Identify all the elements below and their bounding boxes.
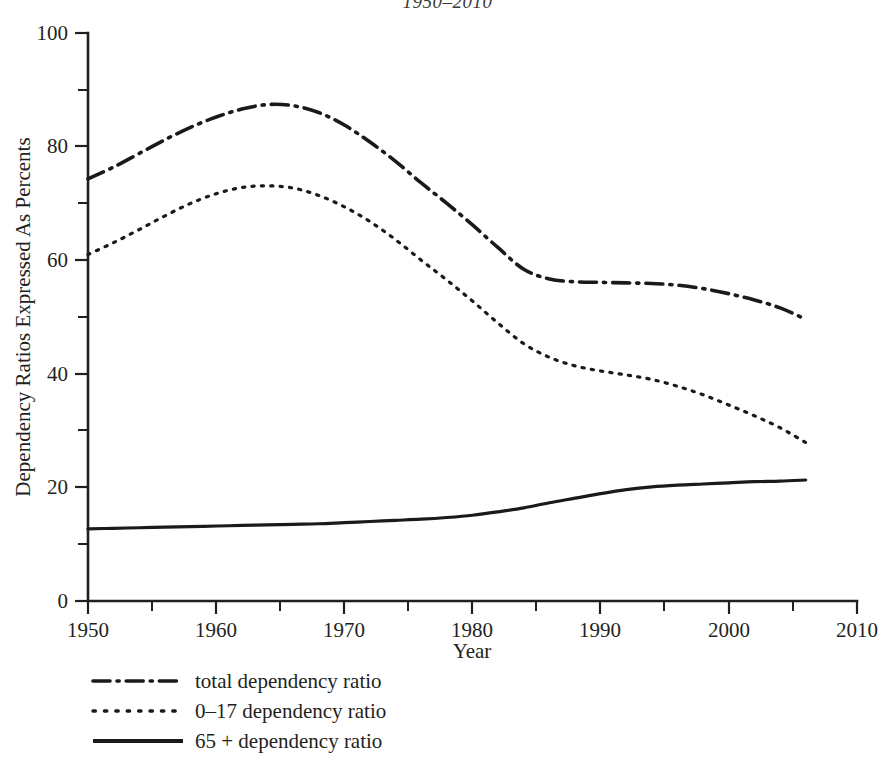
x-tick-label-1950: 1950 — [67, 618, 109, 642]
legend-item-young: 0–17 dependency ratio — [83, 696, 513, 726]
series-line-total-dependency-ratio — [88, 104, 806, 319]
y-tick-label-0: 0 — [58, 589, 69, 613]
legend-label-total: total dependency ratio — [195, 669, 382, 694]
x-tick-label-1990: 1990 — [579, 618, 621, 642]
solid-line-key-icon — [83, 732, 195, 750]
legend-label-young: 0–17 dependency ratio — [195, 699, 386, 724]
legend-label-old: 65 + dependency ratio — [195, 729, 382, 754]
y-tick-label-100: 100 — [37, 21, 69, 45]
dotted-line-key-icon — [83, 702, 195, 720]
series-line-0-17-dependency-ratio — [88, 186, 806, 443]
x-tick-label-2010: 2010 — [836, 618, 878, 642]
y-axis-title: Dependency Ratios Expressed As Percents — [11, 137, 35, 496]
legend-item-total: total dependency ratio — [83, 666, 513, 696]
y-tick-label-40: 40 — [47, 362, 68, 386]
line-chart-plot: Dependency Ratios Expressed As Percents … — [0, 0, 895, 660]
x-tick-label-1960: 1960 — [195, 618, 237, 642]
y-tick-label-20: 20 — [47, 475, 68, 499]
chart-figure: 1950–2010 Dependency Ratios Expressed As… — [0, 0, 895, 778]
chart-legend: total dependency ratio 0–17 dependency r… — [83, 666, 513, 756]
x-axis-title: Year — [453, 639, 492, 660]
x-tick-label-1970: 1970 — [323, 618, 365, 642]
x-tick-label-1980: 1980 — [451, 618, 493, 642]
series-line-65-plus-dependency-ratio — [88, 480, 806, 529]
y-tick-label-60: 60 — [47, 248, 68, 272]
dash-dot-line-key-icon — [83, 672, 195, 690]
x-tick-label-2000: 2000 — [708, 618, 750, 642]
y-tick-label-80: 80 — [47, 134, 68, 158]
x-axis-major-ticks — [88, 601, 857, 614]
y-axis-minor-ticks — [78, 90, 88, 544]
legend-item-old: 65 + dependency ratio — [83, 726, 513, 756]
